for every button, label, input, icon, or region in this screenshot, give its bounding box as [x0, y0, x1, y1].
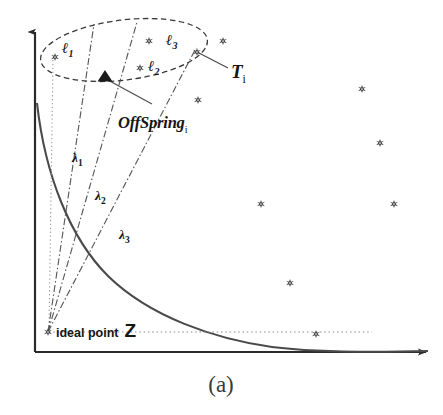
- pareto-front-group: [37, 103, 428, 352]
- ellipse-leader-line: [197, 52, 228, 68]
- subproblem-label-2: ℓ2: [148, 58, 159, 77]
- point-right-upper: [358, 85, 366, 93]
- diagram-canvas: ℓ1 ℓ2 ℓ3 Ti OffSpringi λ1: [0, 0, 443, 415]
- point-lower-mid: [286, 279, 294, 287]
- offspring-leader-group: [106, 79, 152, 104]
- weight-vector-ray-1: [48, 24, 94, 332]
- subproblem-label-1: ℓ1: [62, 40, 73, 59]
- offspring-marker-group: [98, 70, 113, 82]
- point-l3-inner: [145, 37, 153, 45]
- point-l1: [51, 53, 59, 61]
- offspring-leader-line: [106, 79, 152, 104]
- weight-vector-label-2: λ2: [94, 188, 106, 206]
- figure-container: ℓ1 ℓ2 ℓ3 Ti OffSpringi λ1: [0, 0, 443, 415]
- offspring-triangle-marker: [98, 70, 113, 82]
- point-mid-left: [194, 96, 202, 104]
- point-right-mid: [376, 139, 384, 147]
- point-outer-top: [219, 37, 227, 45]
- vertical-guide-line: [49, 60, 53, 330]
- weight-vector-label-3: λ3: [118, 227, 130, 245]
- ideal-point-marker: [44, 328, 52, 336]
- neighborhood-label: Ti: [231, 61, 247, 86]
- ideal-point-label: ideal pointZ: [56, 320, 137, 341]
- point-l2: [136, 64, 144, 72]
- point-on-baseline: [312, 330, 320, 338]
- figure-caption: (a): [208, 372, 234, 397]
- weight-vector-ray-2: [48, 22, 137, 332]
- pareto-front-curve: [37, 103, 428, 352]
- point-mid-lower: [257, 200, 265, 208]
- offspring-label: OffSpringi: [118, 113, 188, 135]
- subproblem-label-3: ℓ3: [166, 32, 177, 51]
- point-far-right: [390, 200, 398, 208]
